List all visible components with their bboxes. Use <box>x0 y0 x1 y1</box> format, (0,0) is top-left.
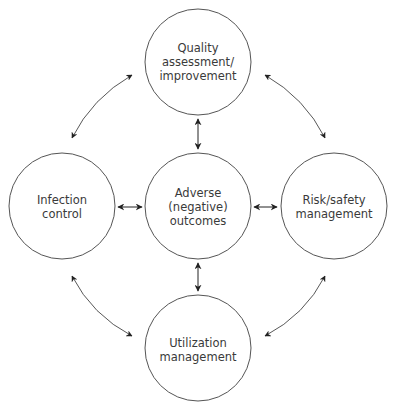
adverse-line-1: Adverse <box>175 186 222 200</box>
utilization-line-2: management <box>159 350 236 364</box>
node-label-quality: Quality assessment/ improvement <box>148 40 248 84</box>
node-label-infection: Infection control <box>12 192 112 222</box>
utilization-line-1: Utilization <box>169 336 227 350</box>
arrow-risk-utilization <box>265 276 325 336</box>
arrow-infection-utilization <box>72 276 132 336</box>
risk-line-2: management <box>295 207 372 221</box>
node-label-utilization: Utilization management <box>148 335 248 365</box>
quality-line-2: assessment/ <box>162 55 234 69</box>
node-label-risk: Risk/safety management <box>284 192 384 222</box>
infection-line-1: Infection <box>37 193 87 207</box>
quality-line-3: improvement <box>159 69 236 83</box>
arrow-quality-risk <box>265 75 325 138</box>
adverse-line-3: outcomes <box>170 214 226 228</box>
infection-line-2: control <box>42 207 82 221</box>
quality-line-1: Quality <box>177 41 218 55</box>
risk-line-1: Risk/safety <box>302 193 365 207</box>
node-label-adverse: Adverse (negative) outcomes <box>148 185 248 229</box>
adverse-line-2: (negative) <box>168 200 227 214</box>
arrow-quality-infection <box>72 75 132 138</box>
